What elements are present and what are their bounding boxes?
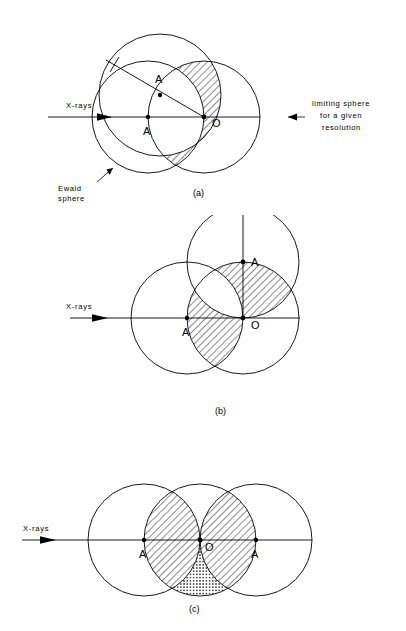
limiting-sphere-label-line1: limiting sphere — [312, 99, 370, 108]
origin-label: O — [251, 319, 260, 331]
limiting-sphere-leader-arrowhead — [288, 113, 297, 120]
origin-label: O — [205, 541, 214, 553]
origin-point-dot — [202, 115, 207, 120]
limiting-sphere-label-line2: for a given — [320, 111, 362, 120]
xray-beam-arrowhead — [40, 536, 56, 544]
center-top-dot — [241, 260, 246, 265]
center-lower-label: A — [182, 326, 190, 338]
center-right-label: A — [251, 548, 259, 560]
xray-label: X-rays — [66, 302, 92, 311]
origin-point-dot — [198, 538, 203, 543]
center-upper-label: A — [251, 256, 259, 268]
panel-b: O A A X-rays (b) — [0, 215, 406, 420]
panel-caption-c: (c) — [189, 604, 200, 614]
ewald-sphere-label-line1: Ewald — [58, 184, 82, 193]
xray-label: X-rays — [66, 101, 92, 110]
center-left-dot — [185, 316, 189, 320]
ewald-sphere-label-line2: sphere — [58, 194, 85, 203]
panel-a: O A A X-rays Ewald sphere limiting spher… — [0, 0, 406, 215]
panel-caption-b: (b) — [215, 406, 226, 416]
center-upper-label: A — [155, 73, 163, 85]
panel-caption-a: (a) — [193, 188, 204, 198]
xray-label: X-rays — [23, 524, 49, 533]
figure-root: O A A X-rays Ewald sphere limiting spher… — [0, 0, 406, 631]
center-lower-label: A — [143, 125, 151, 137]
xray-beam-arrowhead — [92, 314, 108, 322]
center-left-label: A — [139, 548, 147, 560]
origin-point-dot — [241, 316, 246, 321]
center-right-dot — [254, 538, 258, 542]
center-left-dot — [142, 538, 146, 542]
ewald-sphere-leader-arrowhead — [107, 168, 114, 175]
origin-label: O — [212, 117, 221, 129]
panel-c: O A A X-rays (c) — [0, 420, 406, 631]
center-upper-dot — [158, 93, 162, 97]
center-lower-dot — [146, 115, 150, 119]
limiting-sphere-label-line3: resolution — [322, 123, 361, 132]
